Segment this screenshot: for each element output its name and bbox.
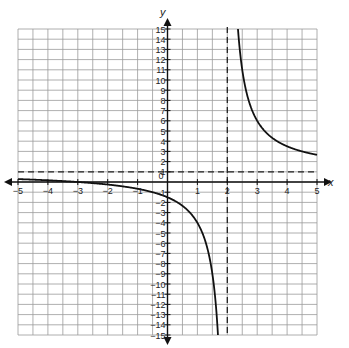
x-tick-label: 5 bbox=[314, 186, 319, 196]
y-tick-label: −9 bbox=[155, 269, 165, 279]
x-tick-label: 3 bbox=[255, 186, 260, 196]
y-tick-label: 11 bbox=[156, 65, 165, 75]
y-tick-label: 5 bbox=[160, 127, 165, 137]
y-tick-label: 12 bbox=[155, 55, 165, 65]
y-tick-label: 4 bbox=[160, 137, 165, 147]
y-tick-label: 1 bbox=[160, 167, 165, 177]
axes bbox=[4, 18, 332, 345]
y-tick-label: 13 bbox=[155, 45, 165, 55]
x-tick-label: 4 bbox=[285, 186, 290, 196]
y-tick-label: −15 bbox=[150, 331, 165, 341]
y-axis-label: y bbox=[159, 6, 167, 18]
y-tick-label: 2 bbox=[160, 157, 165, 167]
y-tick-label: 10 bbox=[155, 76, 165, 86]
y-tick-label: −13 bbox=[150, 310, 165, 320]
x-tick-label: 2 bbox=[225, 186, 230, 196]
y-tick-label: −8 bbox=[155, 259, 165, 269]
y-tick-label: −11 bbox=[151, 290, 166, 300]
y-tick-label: −2 bbox=[155, 198, 165, 208]
y-tick-label: −3 bbox=[155, 208, 165, 218]
y-tick-label: −4 bbox=[155, 218, 165, 228]
x-tick-label: 1 bbox=[195, 186, 200, 196]
y-tick-label: −1 bbox=[155, 188, 165, 198]
x-tick-label: −5 bbox=[13, 186, 23, 196]
rational-function-graph: −5−4−3−2−1012345151413121110987654321−1−… bbox=[0, 0, 349, 348]
y-tick-label: −14 bbox=[150, 320, 165, 330]
x-tick-label: −3 bbox=[73, 186, 83, 196]
y-tick-label: −5 bbox=[155, 229, 165, 239]
y-tick-label: 15 bbox=[155, 25, 165, 35]
right-branch-curve bbox=[238, 29, 317, 155]
y-tick-label: −12 bbox=[150, 300, 165, 310]
x-tick-label: −2 bbox=[103, 186, 113, 196]
y-tick-label: 9 bbox=[160, 86, 165, 96]
x-axis-label: x bbox=[327, 176, 334, 188]
y-tick-label: −6 bbox=[155, 239, 165, 249]
y-tick-label: 3 bbox=[160, 147, 165, 157]
y-tick-label: 8 bbox=[160, 96, 165, 106]
y-tick-label: 14 bbox=[155, 35, 165, 45]
x-tick-label: −4 bbox=[43, 186, 53, 196]
y-tick-label: 6 bbox=[160, 116, 165, 126]
y-tick-label: −10 bbox=[150, 280, 165, 290]
x-axis-left-arrow-icon bbox=[4, 178, 12, 186]
y-tick-label: 7 bbox=[160, 106, 165, 116]
x-tick-label: −1 bbox=[132, 186, 142, 196]
y-tick-label: −7 bbox=[155, 249, 165, 259]
